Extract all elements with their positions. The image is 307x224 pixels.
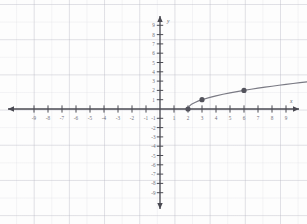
x-tick-label: -9 <box>32 115 37 121</box>
data-point <box>199 97 204 102</box>
graph-figure: -9-8-7-6-5-4-3-2-1123456789 987654321-1-… <box>0 0 307 224</box>
x-tick-label: -4 <box>102 115 107 121</box>
x-tick-label: 5 <box>229 115 232 121</box>
coordinate-plane: -9-8-7-6-5-4-3-2-1123456789 987654321-1-… <box>0 0 307 224</box>
y-axis-label: y <box>166 18 170 24</box>
x-tick-label: -7 <box>60 115 65 121</box>
x-axis-arrow-right-icon <box>293 106 299 111</box>
y-tick-label: -7 <box>151 171 156 177</box>
x-tick-label: -3 <box>116 115 121 121</box>
x-tick-label: -6 <box>74 115 79 121</box>
y-tick-label: 9 <box>152 22 155 28</box>
x-tick-label: -5 <box>88 115 93 121</box>
y-tick-label: -4 <box>151 143 156 149</box>
x-tick-label: 6 <box>243 115 246 121</box>
x-tick-label: 2 <box>187 115 190 121</box>
y-tick-label: 3 <box>152 78 155 84</box>
y-tick-label: -3 <box>151 134 156 140</box>
y-tick-label: 2 <box>152 87 155 93</box>
x-tick-label: -2 <box>130 115 135 121</box>
y-tick-label: 4 <box>152 69 155 75</box>
y-tick-label: 7 <box>152 41 155 47</box>
x-tick-label: -1 <box>144 115 149 121</box>
x-tick-label: -8 <box>46 115 51 121</box>
y-tick-label: 8 <box>152 32 155 38</box>
y-tick-label: -8 <box>151 180 156 186</box>
x-axis-label: x <box>289 98 293 104</box>
y-tick-label: -9 <box>151 190 156 196</box>
y-tick-label: -6 <box>151 162 156 168</box>
x-axis <box>8 106 299 111</box>
y-tick-label: 1 <box>152 97 155 103</box>
x-axis-arrow-left-icon <box>8 106 14 111</box>
y-tick-label: -2 <box>151 125 156 131</box>
y-tick-label: -5 <box>151 153 156 159</box>
y-axis <box>157 16 162 209</box>
function-curve <box>188 82 307 109</box>
y-tick-label: 5 <box>152 60 155 66</box>
x-tick-label: 8 <box>271 115 274 121</box>
x-tick-label: 3 <box>201 115 204 121</box>
y-tick-label: 6 <box>152 50 155 56</box>
x-tick-label: 4 <box>215 115 218 121</box>
data-point <box>241 88 246 93</box>
y-axis-arrow-down-icon <box>157 203 162 209</box>
data-point <box>185 106 190 111</box>
y-tick-label: -1 <box>151 115 156 121</box>
x-tick-label: 1 <box>173 115 176 121</box>
x-tick-label: 9 <box>285 115 288 121</box>
y-axis-arrow-up-icon <box>157 16 162 22</box>
x-tick-label: 7 <box>257 115 260 121</box>
